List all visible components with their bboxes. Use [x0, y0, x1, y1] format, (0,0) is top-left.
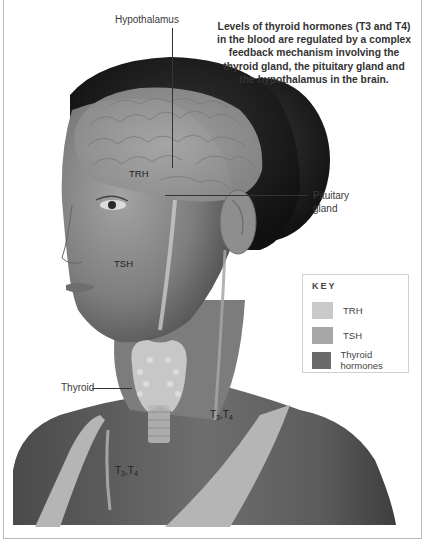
label-t3-t4-neck: T3,T4	[210, 409, 233, 424]
legend-item-thyroid-hormones: Thyroid hormones	[312, 350, 408, 370]
thyroid-leader-line	[92, 388, 132, 389]
label-pituitary-gland: Pituitary gland	[313, 189, 349, 215]
hypothalamus-leader-line	[172, 28, 173, 168]
caption-text: Levels of thyroid hormones (T3 and T4) i…	[215, 20, 413, 86]
label-thyroid: Thyroid	[61, 382, 94, 394]
ear	[220, 190, 256, 254]
legend-title: KEY	[312, 281, 337, 291]
label-pituitary-line1: Pituitary	[313, 189, 349, 202]
label-pituitary-line2: gland	[313, 202, 349, 215]
legend-key: KEY TRH TSH Thyroid hormones	[302, 274, 409, 373]
label-hypothalamus: Hypothalamus	[115, 14, 179, 26]
swatch-trh	[312, 302, 333, 319]
legend-item-tsh: TSH	[312, 325, 362, 345]
pituitary-leader-line	[165, 195, 308, 196]
label-tsh: TSH	[114, 258, 133, 270]
swatch-tsh	[312, 327, 333, 344]
legend-item-trh: TRH	[312, 300, 363, 320]
swatch-thyroid-hormones	[312, 352, 331, 369]
label-t3-t4-chest: T3,T4	[115, 465, 138, 480]
trachea	[148, 405, 170, 443]
label-trh: TRH	[129, 168, 149, 180]
